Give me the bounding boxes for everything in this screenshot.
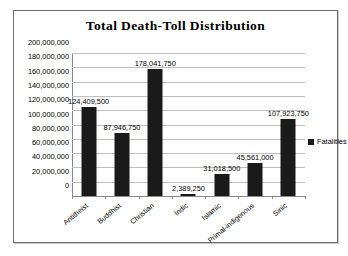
bar-value-label: 178,041,750	[135, 59, 176, 68]
bar-value-label: 2,389,250	[172, 184, 205, 193]
y-axis-tick-label: 60,000,000	[15, 139, 69, 147]
bar[interactable]	[181, 194, 196, 196]
y-axis-tick-label: 80,000,000	[15, 125, 69, 133]
bar-value-label: 31,018,500	[203, 164, 240, 173]
legend-label-fatalities: Fatalities	[317, 137, 347, 146]
x-axis-category-label: Sinic	[271, 201, 289, 218]
x-axis-tick	[72, 196, 73, 199]
bar[interactable]	[81, 107, 96, 196]
bar[interactable]	[214, 174, 229, 196]
bar-slot: 178,041,750	[139, 53, 172, 196]
y-axis-tick-label: 160,000,000	[15, 68, 69, 76]
bar[interactable]	[114, 133, 129, 196]
x-axis-category-label: Christian	[128, 201, 156, 226]
x-axis-category-label: Indic	[172, 201, 189, 218]
chart-screenshot: Total Death-Toll Distribution 200,000,00…	[0, 0, 348, 256]
y-axis-tick-label: 0	[15, 182, 69, 190]
y-axis-tick-label: 180,000,000	[15, 53, 69, 61]
chart-frame: Total Death-Toll Distribution 200,000,00…	[13, 10, 338, 243]
x-axis-category-label: Islamic	[200, 201, 223, 222]
y-axis-tick-label: 40,000,000	[15, 153, 69, 161]
bar-slot: 107,923,750	[272, 53, 305, 196]
legend-swatch-fatalities	[308, 139, 314, 145]
x-axis-tick	[272, 196, 273, 199]
x-axis-tick	[205, 196, 206, 199]
y-axis-tick-label: 120,000,000	[15, 96, 69, 104]
bar-slot: 31,018,500	[205, 53, 238, 196]
bar-value-label: 45,561,000	[237, 153, 274, 162]
y-axis-tick-label: 200,000,000	[15, 39, 69, 47]
gridline	[72, 196, 305, 197]
y-axis-tick-label: 140,000,000	[15, 82, 69, 90]
x-axis-category-label: Buddhist	[95, 201, 122, 226]
x-axis-tick	[139, 196, 140, 199]
bar[interactable]	[248, 163, 263, 196]
plot-area: 124,409,50087,946,750178,041,7502,389,25…	[72, 53, 305, 196]
bar-value-label: 124,409,500	[68, 97, 109, 106]
bar[interactable]	[148, 69, 163, 196]
bar-value-label: 87,946,750	[103, 123, 140, 132]
chart-legend: Fatalities	[308, 137, 347, 146]
bar-slot: 124,409,500	[72, 53, 105, 196]
bar-slot: 45,561,000	[238, 53, 271, 196]
x-axis-tick	[238, 196, 239, 199]
x-axis-tick	[305, 196, 306, 199]
bar[interactable]	[281, 119, 296, 196]
x-axis-tick	[172, 196, 173, 199]
y-axis-tick-label: 20,000,000	[15, 168, 69, 176]
x-axis-tick	[105, 196, 106, 199]
bar-slot: 2,389,250	[172, 53, 205, 196]
bar-slot: 87,946,750	[105, 53, 138, 196]
y-axis-tick-label: 100,000,000	[15, 111, 69, 119]
bar-value-label: 107,923,750	[268, 109, 309, 118]
